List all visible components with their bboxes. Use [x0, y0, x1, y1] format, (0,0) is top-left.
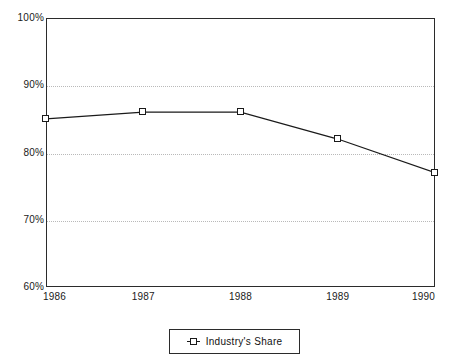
y-axis-tick-label: 100% [2, 13, 44, 23]
y-axis-tick-label: 70% [2, 215, 44, 225]
y-axis-tick-label: 60% [2, 282, 44, 292]
data-point-marker [139, 108, 146, 115]
data-point-marker [334, 135, 341, 142]
series-line [46, 18, 435, 287]
x-axis: 19861987198819891990 [46, 291, 435, 305]
x-axis-tick-label: 1989 [326, 291, 349, 302]
x-axis-tick-label: 1986 [43, 291, 66, 302]
y-axis-tick-label: 90% [2, 80, 44, 90]
x-axis-tick-label: 1990 [412, 291, 435, 302]
x-axis-tick-label: 1988 [229, 291, 252, 302]
legend-item-label: Industry's Share [206, 336, 283, 347]
legend-box: Industry's Share [169, 329, 300, 354]
data-point-marker [42, 115, 49, 122]
y-axis-tick-label: 80% [2, 148, 44, 158]
data-point-marker [431, 169, 438, 176]
chart-page: 60%70%80%90%100% 19861987198819891990 In… [0, 0, 469, 363]
x-axis-tick-label: 1987 [132, 291, 155, 302]
series-layer [46, 18, 435, 287]
data-point-marker [237, 108, 244, 115]
legend-item-industrys-share: Industry's Share [187, 336, 283, 347]
legend-square-marker-icon [187, 337, 200, 346]
y-axis: 60%70%80%90%100% [0, 18, 44, 287]
